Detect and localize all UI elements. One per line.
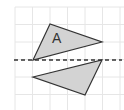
reflection-diagram: A (0, 0, 124, 110)
grid (15, 7, 124, 110)
triangle-a-label: A (52, 30, 62, 46)
